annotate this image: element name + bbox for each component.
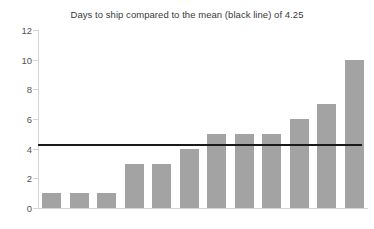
y-tick-label-8: 8 xyxy=(8,84,32,95)
chart-title: Days to ship compared to the mean (black… xyxy=(0,9,374,20)
bar-11 xyxy=(317,104,336,208)
y-tick-mark-0 xyxy=(33,208,38,209)
bar-10 xyxy=(290,119,309,208)
x-axis-line xyxy=(38,208,368,209)
bar-5 xyxy=(152,164,171,209)
bar-1 xyxy=(42,193,61,208)
bar-chart: Days to ship compared to the mean (black… xyxy=(0,0,374,229)
bar-3 xyxy=(97,193,116,208)
mean-reference-line xyxy=(38,144,362,146)
bar-4 xyxy=(125,164,144,209)
bar-6 xyxy=(180,149,199,208)
bar-2 xyxy=(70,193,89,208)
y-tick-label-10: 10 xyxy=(8,54,32,65)
y-tick-label-2: 2 xyxy=(8,173,32,184)
y-tick-label-6: 6 xyxy=(8,114,32,125)
bar-12 xyxy=(345,60,364,208)
plot-area xyxy=(38,30,368,208)
y-tick-label-0: 0 xyxy=(8,203,32,214)
y-tick-label-12: 12 xyxy=(8,25,32,36)
y-tick-label-4: 4 xyxy=(8,143,32,154)
